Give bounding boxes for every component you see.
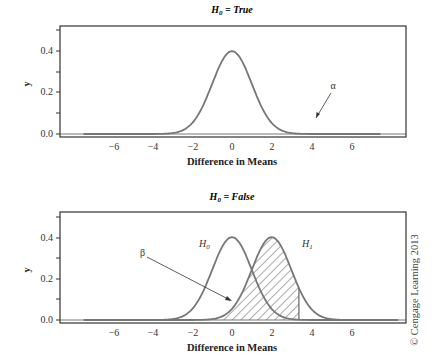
figure: H0 = True 0.4 0.2 0.0 y −6 −4 −2 0 2 4 6… xyxy=(0,0,440,357)
x-axis-label: Difference in Means xyxy=(187,342,277,353)
svg-text:−4: −4 xyxy=(148,141,159,152)
chart-title: H0 = False xyxy=(209,191,255,204)
svg-text:−6: −6 xyxy=(109,327,120,338)
svg-text:0: 0 xyxy=(230,327,235,338)
y-tick-label: 0.4 xyxy=(41,232,54,243)
chart-title: H0 = True xyxy=(210,4,253,17)
svg-text:4: 4 xyxy=(310,141,315,152)
svg-text:−2: −2 xyxy=(188,327,199,338)
plot-frame xyxy=(60,26,406,137)
arrow-head-icon xyxy=(225,296,232,301)
x-tick-labels: −6 −4 −2 0 2 4 6 xyxy=(109,327,355,338)
h0-label: H0 xyxy=(198,238,210,251)
alpha-label: α xyxy=(330,80,336,91)
y-tick-label: 0.0 xyxy=(41,128,54,139)
x-tick-labels: −6 −4 −2 0 2 4 6 xyxy=(109,141,355,152)
svg-text:6: 6 xyxy=(350,327,355,338)
beta-region xyxy=(123,237,299,320)
svg-text:0: 0 xyxy=(230,141,235,152)
beta-label: β xyxy=(140,247,145,258)
y-axis-label: y xyxy=(21,82,32,87)
h0-curve xyxy=(84,51,381,134)
y-tick-label: 0.2 xyxy=(41,273,54,284)
svg-text:6: 6 xyxy=(350,141,355,152)
copyright-notice: © Cengage Learning 2013 xyxy=(409,234,420,346)
svg-text:2: 2 xyxy=(270,141,275,152)
svg-text:2: 2 xyxy=(270,327,275,338)
beta-arrow xyxy=(147,257,230,300)
h1-label: H1 xyxy=(301,238,313,251)
x-axis-label: Difference in Means xyxy=(187,156,277,167)
svg-text:4: 4 xyxy=(310,327,315,338)
y-tick-label: 0.0 xyxy=(41,314,54,325)
chart-h0-false: H0 = False 0.4 0.2 0.0 y −6 −4 −2 0 2 4 … xyxy=(21,191,406,353)
svg-text:−4: −4 xyxy=(148,327,159,338)
svg-text:−2: −2 xyxy=(188,141,199,152)
y-tick-label: 0.2 xyxy=(41,86,54,97)
chart-h0-true: H0 = True 0.4 0.2 0.0 y −6 −4 −2 0 2 4 6… xyxy=(21,4,406,167)
y-axis-label: y xyxy=(21,268,32,273)
y-tick-label: 0.4 xyxy=(41,45,54,56)
svg-text:−6: −6 xyxy=(109,141,120,152)
